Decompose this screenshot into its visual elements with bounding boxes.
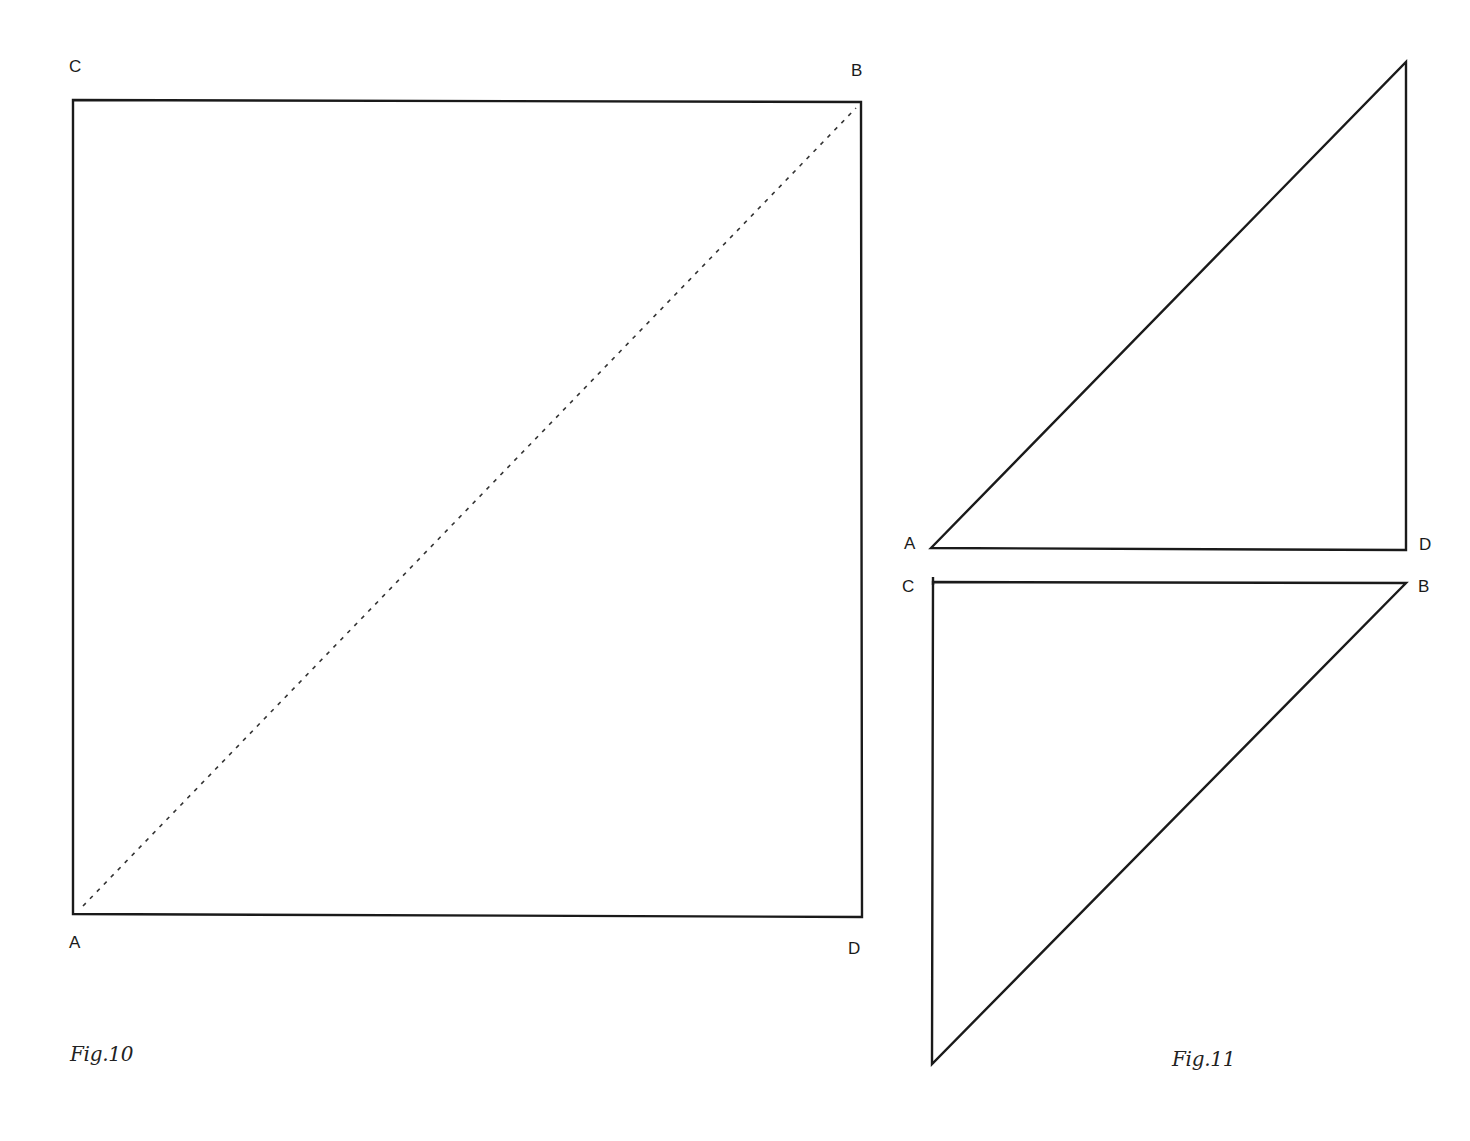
fig10-label-b: B bbox=[851, 62, 862, 79]
fig10-caption-title: Fig.10 bbox=[70, 1038, 238, 1070]
fig11-caption-title: Fig.11 bbox=[1172, 1043, 1398, 1075]
fig11-caption: Fig.11 Pin and stitch together the seam … bbox=[1172, 979, 1398, 1141]
fig11-label-c: C bbox=[902, 578, 914, 595]
figures-canvas bbox=[0, 0, 1470, 1141]
fig10-label-a: A bbox=[69, 934, 80, 951]
fig10-diagonal-cut-line bbox=[83, 108, 856, 906]
fig11-label-b: B bbox=[1418, 578, 1429, 595]
fig11-label-d: D bbox=[1419, 536, 1431, 553]
fig10-label-c: C bbox=[69, 58, 81, 75]
fig11-label-a: A bbox=[904, 535, 915, 552]
fig10-caption: Fig.10 Cut along the diagonal line AB. bbox=[70, 974, 238, 1141]
fig11-upper-triangle bbox=[931, 62, 1406, 550]
fig10-label-d: D bbox=[848, 940, 860, 957]
fig10-caption-line1: Cut along the bbox=[70, 1134, 238, 1141]
